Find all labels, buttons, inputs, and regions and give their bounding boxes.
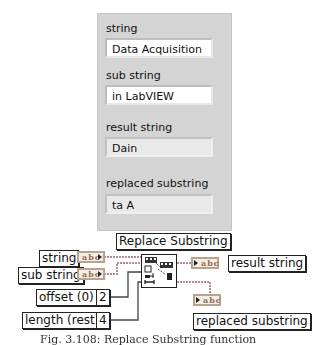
string-control-terminal[interactable]: abc	[77, 251, 105, 263]
abc-string-type-icon: abc	[201, 259, 220, 267]
sub-string-terminal-label: sub string	[18, 267, 84, 284]
output-arrow-icon	[98, 271, 102, 277]
result-string-indicator-terminal[interactable]: abc	[191, 257, 219, 269]
replace-substring-glyph-icon	[142, 255, 176, 287]
length-constant[interactable]: 4	[96, 312, 110, 329]
abc-string-type-icon: abc	[203, 296, 222, 304]
offset-constant[interactable]: 2	[96, 289, 110, 306]
input-arrow-icon	[196, 297, 200, 303]
result-string-terminal-label: result string	[228, 255, 306, 272]
offset-label: offset (0)	[36, 289, 97, 306]
replace-substring-node[interactable]	[141, 254, 177, 288]
string-terminal-label: string	[39, 250, 79, 267]
input-arrow-icon	[194, 260, 198, 266]
replaced-substring-indicator-terminal[interactable]: abc	[193, 294, 221, 306]
length-label: length (rest)	[22, 312, 102, 329]
output-arrow-icon	[98, 254, 102, 260]
figure-caption: Fig. 3.108: Replace Substring function	[40, 333, 256, 345]
replace-substring-function-label: Replace Substring	[116, 233, 231, 250]
sub-string-control-terminal[interactable]: abc	[77, 268, 105, 280]
replaced-substring-terminal-label: replaced substring	[193, 313, 311, 330]
